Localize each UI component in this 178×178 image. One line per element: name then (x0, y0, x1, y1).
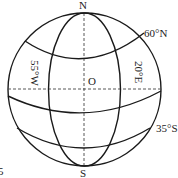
globe-outline (8, 13, 161, 166)
parallel-south-1 (8, 91, 161, 113)
label-20E: 20°E (133, 61, 144, 83)
parallel-35S (17, 128, 150, 148)
label-55W: 55°W (29, 60, 40, 86)
label-center: O (88, 76, 96, 87)
parallel-60N (25, 33, 144, 59)
meridian-55W (49, 13, 121, 166)
label-35S: 35°S (156, 123, 178, 134)
label-60N: 60°N (144, 28, 167, 39)
label-south: S (80, 168, 86, 178)
label-north: N (79, 0, 87, 11)
question-number: 5 (0, 166, 4, 177)
